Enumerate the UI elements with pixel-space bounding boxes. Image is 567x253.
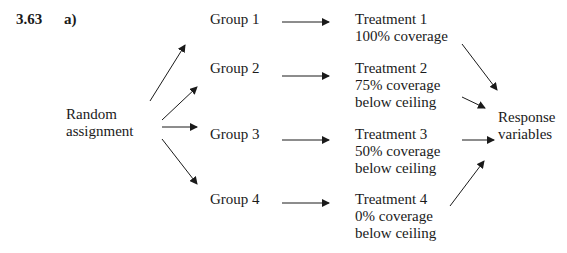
flow-arrows bbox=[0, 0, 567, 253]
arrow-random-to-group-4 bbox=[162, 139, 197, 184]
arrow-random-to-group-2 bbox=[162, 87, 197, 120]
arrow-treatment-4-to-response bbox=[450, 161, 484, 206]
arrow-treatment-2-to-response bbox=[462, 97, 485, 108]
arrow-random-to-group-1 bbox=[150, 45, 185, 101]
arrow-treatment-1-to-response bbox=[462, 44, 497, 90]
